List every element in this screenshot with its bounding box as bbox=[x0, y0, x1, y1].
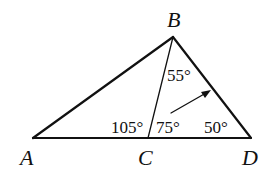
point-label-b: B bbox=[167, 7, 180, 32]
angle-bdc: 50° bbox=[204, 118, 228, 137]
angle-bca: 105° bbox=[111, 118, 143, 137]
point-label-d: D bbox=[241, 145, 258, 170]
point-label-a: A bbox=[18, 145, 34, 170]
arrow-head-icon bbox=[201, 90, 211, 98]
angle-cbd: 55° bbox=[167, 66, 191, 85]
arrow-shaft bbox=[171, 93, 206, 113]
point-label-c: C bbox=[138, 145, 153, 170]
triangle-diagram: B A C D 55° 105° 75° 50° bbox=[0, 0, 276, 179]
angle-bcd: 75° bbox=[156, 118, 180, 137]
